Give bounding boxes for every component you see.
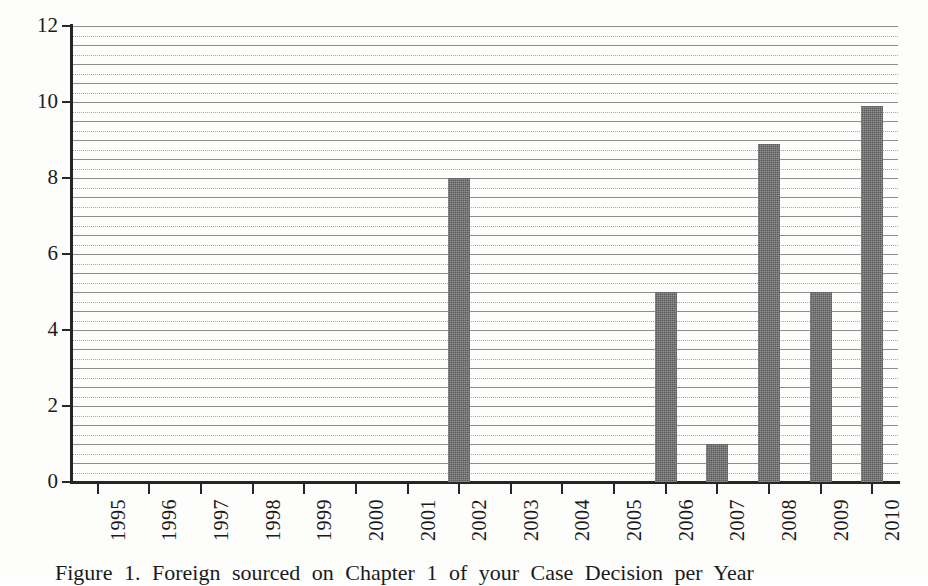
- y-axis-tick-label: 12: [0, 15, 58, 36]
- gridline: [72, 112, 898, 113]
- y-axis-tick-label: 2: [0, 395, 58, 416]
- x-axis-tick-label: 2001: [417, 499, 440, 541]
- figure-caption: Figure 1. Foreign sourced on Chapter 1 o…: [55, 560, 754, 586]
- x-axis-tick-label: 2005: [623, 499, 646, 541]
- x-axis-tick-label: 2000: [365, 499, 388, 541]
- x-axis-tick: [355, 484, 357, 494]
- x-axis-tick-label: 2008: [778, 499, 801, 541]
- y-axis-tick: [62, 481, 72, 483]
- x-axis-tick-label: 2003: [520, 499, 543, 541]
- x-axis-tick: [613, 484, 615, 494]
- x-axis-tick: [148, 484, 150, 494]
- gridline: [72, 64, 898, 65]
- bar: [706, 444, 728, 482]
- gridline: [72, 140, 898, 141]
- x-axis-tick-label: 2006: [675, 499, 698, 541]
- gridline: [72, 102, 898, 103]
- x-axis-tick-label: 1996: [158, 499, 181, 541]
- x-axis-tick: [768, 484, 770, 494]
- x-axis-tick: [303, 484, 305, 494]
- y-axis-tick-label: 10: [0, 91, 58, 112]
- x-axis-tick: [252, 484, 254, 494]
- gridline: [72, 45, 898, 46]
- x-axis-tick-label: 2010: [881, 499, 904, 541]
- gridline: [72, 74, 898, 75]
- y-axis-tick-label: 6: [0, 243, 58, 264]
- x-axis-tick: [561, 484, 563, 494]
- gridline: [72, 93, 898, 94]
- y-axis-tick-label: 8: [0, 167, 58, 188]
- y-axis-tick: [62, 329, 72, 331]
- gridline: [72, 36, 898, 37]
- y-axis-tick-label: 0: [0, 471, 58, 492]
- x-axis-tick-label: 2009: [830, 499, 853, 541]
- x-axis-tick-label: 2007: [726, 499, 749, 541]
- x-axis-tick-label: 1999: [313, 499, 336, 541]
- y-axis-tick: [62, 253, 72, 255]
- x-axis-tick: [871, 484, 873, 494]
- y-axis-tick: [62, 25, 72, 27]
- x-axis-tick: [97, 484, 99, 494]
- y-axis-tick: [62, 177, 72, 179]
- gridline: [72, 55, 898, 56]
- x-axis-tick-label: 1998: [262, 499, 285, 541]
- x-axis-tick: [200, 484, 202, 494]
- x-axis-tick: [665, 484, 667, 494]
- x-axis-tick-label: 1997: [210, 499, 233, 541]
- y-axis-tick: [62, 101, 72, 103]
- y-axis-tick-label: 4: [0, 319, 58, 340]
- gridline: [72, 83, 898, 84]
- y-axis-tick: [62, 405, 72, 407]
- x-axis-tick: [458, 484, 460, 494]
- gridline: [72, 121, 898, 122]
- x-axis-tick-label: 1995: [107, 499, 130, 541]
- x-axis-tick: [716, 484, 718, 494]
- bar: [861, 106, 883, 482]
- x-axis-tick: [407, 484, 409, 494]
- bar: [810, 292, 832, 482]
- gridline: [72, 26, 898, 27]
- gridline: [72, 131, 898, 132]
- x-axis-tick: [820, 484, 822, 494]
- x-axis-tick-label: 2004: [571, 499, 594, 541]
- x-axis-tick: [510, 484, 512, 494]
- bar: [448, 178, 470, 482]
- bar: [758, 144, 780, 482]
- x-axis-tick-label: 2002: [468, 499, 491, 541]
- bar: [655, 292, 677, 482]
